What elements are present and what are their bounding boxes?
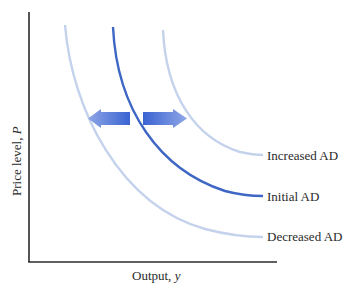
y-axis-label: Price level, P — [10, 126, 23, 196]
decreased-ad-curve — [65, 25, 263, 237]
x-axis-label: Output, y — [132, 269, 180, 282]
decreased-ad-label: Decreased AD — [267, 230, 342, 243]
ad-shift-diagram — [0, 0, 348, 292]
increased-ad-curve — [163, 30, 263, 155]
x-axis-label-text: Output, — [132, 268, 175, 283]
arrow-right-icon — [143, 109, 187, 128]
y-axis-label-text: Price level, — [9, 134, 24, 196]
arrow-left-icon — [88, 109, 130, 128]
initial-ad-label: Initial AD — [267, 190, 319, 203]
x-axis-variable: y — [175, 268, 181, 283]
y-axis-variable: P — [9, 126, 24, 134]
increased-ad-label: Increased AD — [267, 149, 338, 162]
